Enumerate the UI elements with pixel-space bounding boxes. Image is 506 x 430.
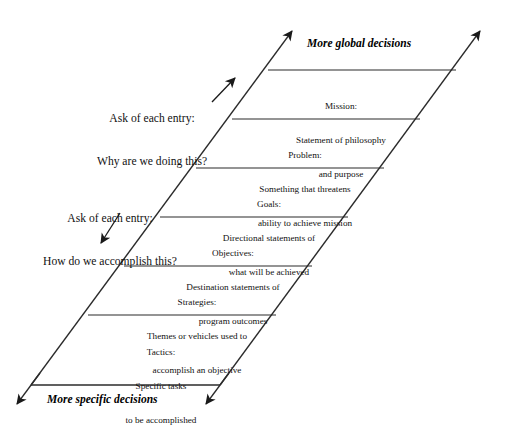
diagram-canvas: More global decisions More specific deci…	[0, 0, 506, 430]
annotation-why-line1: Ask of each entry:	[77, 112, 227, 126]
band-tactics-line2: Specific tasks	[87, 381, 235, 392]
annotation-how-line1: Ask of each entry:	[20, 212, 200, 226]
band-mission-heading: Mission:	[267, 101, 415, 112]
left-edge-down-arrow	[17, 373, 40, 404]
axis-label-top: More global decisions	[307, 36, 411, 50]
band-strategies-heading: Strategies:	[123, 297, 271, 308]
band-tactics-line3: to be accomplished	[87, 415, 235, 426]
annotation-why-line2: Why are we doing this?	[77, 155, 227, 169]
band-tactics: Tactics: Specific tasks to be accomplish…	[87, 325, 235, 430]
band-problem-heading: Problem:	[231, 150, 379, 161]
band-goals-heading: Goals:	[195, 199, 343, 210]
band-tactics-heading: Tactics:	[87, 347, 235, 358]
band-objectives-heading: Objectives:	[159, 248, 307, 259]
